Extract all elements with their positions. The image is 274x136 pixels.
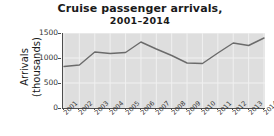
y-tick-mark (58, 33, 61, 34)
chart-title: Cruise passenger arrivals, (30, 2, 250, 15)
y-tick-label: 1000 (34, 54, 58, 62)
y-axis-ticks: 150010005000 (32, 0, 58, 136)
y-tick-mark (58, 58, 61, 59)
vertical-gridlines (64, 33, 264, 108)
y-tick-mark (58, 108, 61, 109)
y-tick-mark (58, 83, 61, 84)
plot-area (62, 33, 265, 109)
chart-canvas (63, 33, 265, 108)
y-tick-label: 1500 (34, 29, 58, 37)
x-axis-ticks: 2001200220032004200520062007200820092010… (62, 108, 264, 136)
y-axis-label-line1: Arrivals (19, 37, 31, 97)
chart-figure: Cruise passenger arrivals, 2001–2014 Arr… (0, 0, 274, 136)
y-tick-label: 500 (34, 79, 58, 87)
y-tick-label: 0 (34, 104, 58, 112)
data-line-series-1 (64, 38, 264, 67)
horizontal-gridlines (63, 33, 265, 83)
